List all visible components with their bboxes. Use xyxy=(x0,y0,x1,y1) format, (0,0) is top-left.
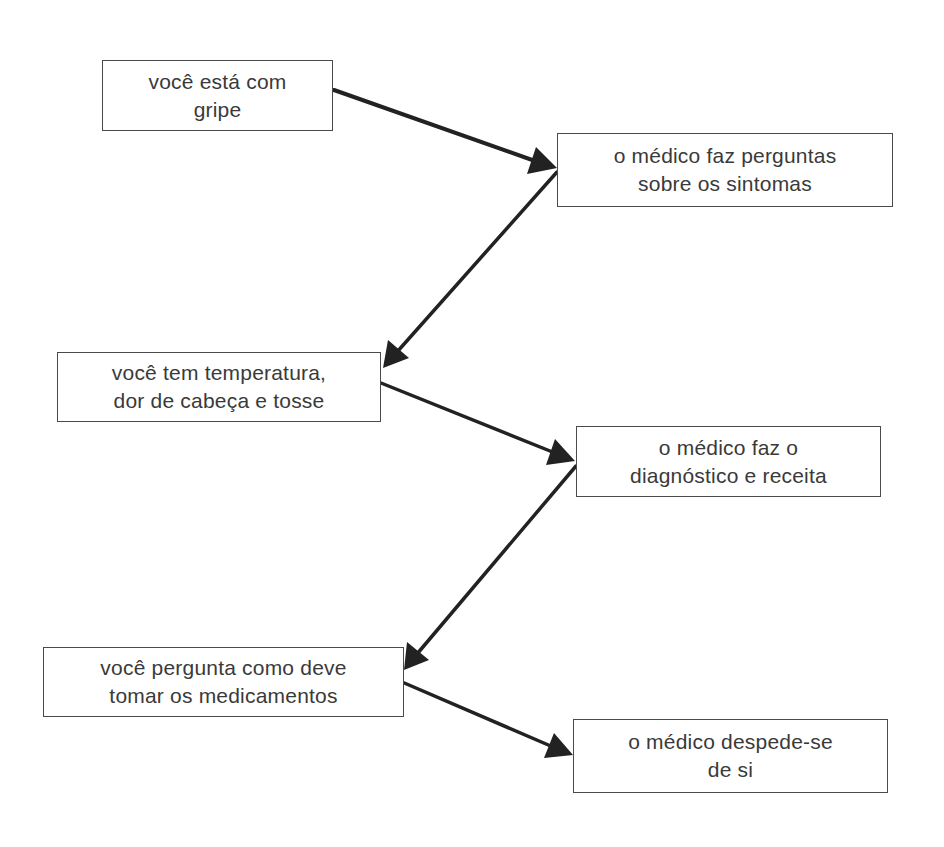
node-medico-faz-diagnostico: o médico faz o diagnóstico e receita xyxy=(576,426,881,497)
arrow-n2-n3 xyxy=(383,172,557,368)
node-text-line1: você está com xyxy=(149,68,287,96)
node-text-line2: sobre os sintomas xyxy=(638,170,812,198)
node-text-line2: dor de cabeça e tosse xyxy=(114,387,325,415)
node-text-line1: você pergunta como deve xyxy=(100,654,346,682)
flowchart-canvas: você está com gripe o médico faz pergunt… xyxy=(0,0,944,847)
node-medico-faz-perguntas: o médico faz perguntas sobre os sintomas xyxy=(557,133,893,207)
node-voce-pergunta-medicamentos: você pergunta como deve tomar os medicam… xyxy=(43,647,404,717)
node-text-line2: diagnóstico e receita xyxy=(630,462,827,490)
node-medico-despede-se: o médico despede-se de si xyxy=(573,719,888,793)
arrow-n5-n6 xyxy=(402,682,573,758)
node-voce-tem-temperatura: você tem temperatura, dor de cabeça e to… xyxy=(57,352,381,422)
node-voce-esta-com-gripe: você está com gripe xyxy=(102,60,333,131)
node-text-line2: de si xyxy=(708,756,753,784)
arrow-n1-n2 xyxy=(334,90,557,174)
node-text-line1: o médico faz o xyxy=(659,434,798,462)
node-text-line1: você tem temperatura, xyxy=(112,359,326,387)
arrow-n4-n5 xyxy=(404,466,576,670)
node-text-line1: o médico despede-se xyxy=(628,728,833,756)
node-text-line2: tomar os medicamentos xyxy=(109,682,337,710)
node-text-line1: o médico faz perguntas xyxy=(614,142,837,170)
arrow-n3-n4 xyxy=(381,383,575,465)
node-text-line2: gripe xyxy=(194,96,242,124)
